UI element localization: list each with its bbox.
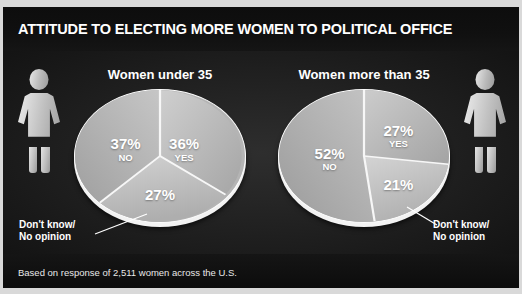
pie-chart-women-more-than-35: Women more than 35 (275, 67, 453, 237)
source-note: Based on response of 2,511 women across … (18, 267, 237, 278)
pie-label-dontknow-left: 27% (145, 187, 175, 202)
woman-leg-right-shape (487, 147, 496, 173)
pie-label-no-right: 52% NO (315, 146, 345, 172)
page-title: ATTITUDE TO ELECTING MORE WOMEN TO POLIT… (18, 21, 452, 37)
pie-label-yes-right: 27% YES (383, 123, 413, 149)
callout-dontknow-left: Don't know/ No opinion (19, 219, 75, 243)
infographic-panel: ATTITUDE TO ELECTING MORE WOMEN TO POLIT… (3, 7, 519, 288)
woman-leg-left-shape (29, 147, 38, 173)
woman-head-shape (476, 69, 495, 90)
pie-disc-right (278, 89, 450, 223)
infographic-root: ATTITUDE TO ELECTING MORE WOMEN TO POLIT… (0, 0, 522, 294)
callout-right-line2: No opinion (433, 231, 489, 243)
woman-pictogram-icon-right (462, 69, 508, 173)
woman-leg-left-shape (475, 147, 484, 173)
callout-left-line1: Don't know/ (19, 219, 75, 231)
pie-title-left: Women under 35 (108, 67, 213, 82)
pie-label-dontknow-right: 21% (383, 178, 413, 193)
woman-body-shape (464, 93, 506, 149)
woman-leg-right-shape (41, 147, 50, 173)
pie-graphic-left: 36% YES 37% NO 27% (74, 89, 246, 223)
callout-right-line1: Don't know/ (433, 219, 489, 231)
callout-left-line2: No opinion (19, 231, 75, 243)
woman-head-shape (30, 69, 49, 90)
woman-pictogram-icon-left (16, 69, 62, 173)
pie-label-no-left: 37% NO (111, 136, 141, 162)
callout-dontknow-right: Don't know/ No opinion (433, 219, 489, 243)
woman-body-shape (18, 93, 60, 149)
pie-graphic-right: 27% YES 21% 52% NO (278, 89, 450, 223)
pie-slices-right (279, 90, 449, 222)
pie-title-right: Women more than 35 (298, 67, 429, 82)
pie-label-yes-left: 36% YES (169, 136, 199, 162)
pie-chart-women-under-35: Women under 35 (71, 67, 249, 237)
